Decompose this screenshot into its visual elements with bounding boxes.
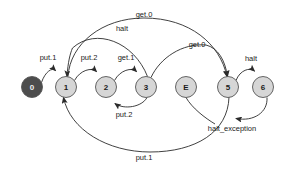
edge-3-to-5 (151, 45, 228, 78)
edge-5-to-1 (64, 97, 230, 152)
node-1-label: 1 (64, 83, 69, 92)
node-0-label: 0 (30, 83, 35, 92)
edge-6-to-5 (236, 98, 267, 120)
nodes-layer: 0 1 2 3 E 5 (22, 77, 274, 98)
edge-0-to-1 (42, 69, 56, 82)
edge-3-to-2 (115, 98, 147, 107)
node-3[interactable]: 3 (136, 77, 157, 98)
edge-label-put2-3-2: put.2 (116, 110, 133, 119)
node-2[interactable]: 2 (96, 77, 117, 98)
node-5-label: 5 (226, 83, 231, 92)
edge-label-get0-1-5: get.0 (136, 10, 153, 19)
edge-label-put1-0-1: put.1 (40, 53, 57, 62)
node-6-label: 6 (261, 83, 266, 92)
node-E-label: E (183, 83, 189, 92)
edge-label-put2-1-2: put.2 (81, 53, 98, 62)
edge-label-get0-3-5: get.0 (189, 40, 206, 49)
node-1[interactable]: 1 (56, 77, 77, 98)
node-5[interactable]: 5 (218, 77, 239, 98)
edge-label-halt-exception-6-5: halt_exception (208, 124, 256, 133)
node-E[interactable]: E (176, 77, 197, 98)
node-0[interactable]: 0 (22, 77, 43, 98)
edge-label-halt-5-6: halt (245, 54, 258, 63)
edge-5-to-6 (236, 69, 255, 80)
edge-1-to-2 (75, 69, 97, 80)
edge-halt-exception-tail (186, 98, 215, 125)
edge-label-halt-3-1: halt (116, 24, 129, 33)
state-machine-diagram: 0 1 2 3 E 5 (0, 0, 291, 169)
node-6[interactable]: 6 (253, 77, 274, 98)
node-2-label: 2 (104, 83, 109, 92)
node-3-label: 3 (144, 83, 149, 92)
edge-label-get1-2-3: get.1 (118, 53, 135, 62)
edge-2-to-3 (115, 69, 137, 80)
edge-label-put1-5-1: put.1 (136, 153, 153, 162)
diagram-canvas: 0 1 2 3 E 5 (0, 0, 291, 169)
